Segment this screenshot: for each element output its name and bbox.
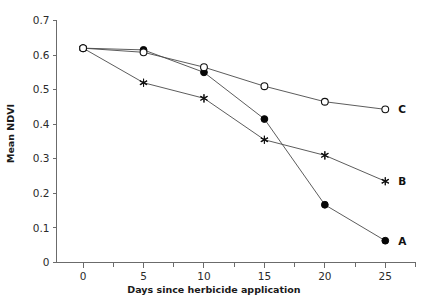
series-c-marker-open-circle (140, 49, 147, 56)
series-c-label: C (398, 103, 406, 115)
series-c-marker-open-circle (321, 98, 328, 105)
x-tick-label: 20 (318, 270, 331, 282)
x-tick-label: 10 (197, 270, 210, 282)
chart-container: 00.10.20.30.40.50.60.70510152025Days sin… (0, 0, 424, 301)
series-c-marker-open-circle (382, 106, 389, 113)
series-b-line (83, 48, 385, 181)
x-tick-label: 25 (379, 270, 392, 282)
y-axis-title: Mean NDVI (5, 104, 16, 163)
y-tick-label: 0.5 (33, 83, 50, 95)
series-a-marker-filled-circle (382, 237, 389, 244)
x-tick-label: 15 (258, 270, 271, 282)
y-tick-label: 0.7 (33, 14, 50, 26)
series-a-label: A (398, 235, 407, 247)
x-tick-label: 5 (140, 270, 147, 282)
series-c-marker-open-circle (80, 45, 87, 52)
series-c-marker-open-circle (261, 83, 268, 90)
y-tick-label: 0.6 (33, 49, 50, 61)
series-b-label: B (398, 175, 406, 187)
y-tick-label: 0.3 (33, 152, 50, 164)
y-tick-label: 0.2 (33, 187, 50, 199)
y-tick-label: 0.4 (33, 118, 50, 130)
series-c-line (83, 48, 385, 109)
series-a-marker-filled-circle (261, 116, 268, 123)
y-tick-label: 0.1 (33, 222, 50, 234)
y-tick-label: 0 (43, 256, 50, 268)
line-chart: 00.10.20.30.40.50.60.70510152025Days sin… (0, 0, 424, 301)
x-tick-label: 0 (80, 270, 87, 282)
series-a-marker-filled-circle (321, 201, 328, 208)
x-axis-title: Days since herbicide application (127, 284, 300, 295)
series-c-marker-open-circle (201, 64, 208, 71)
